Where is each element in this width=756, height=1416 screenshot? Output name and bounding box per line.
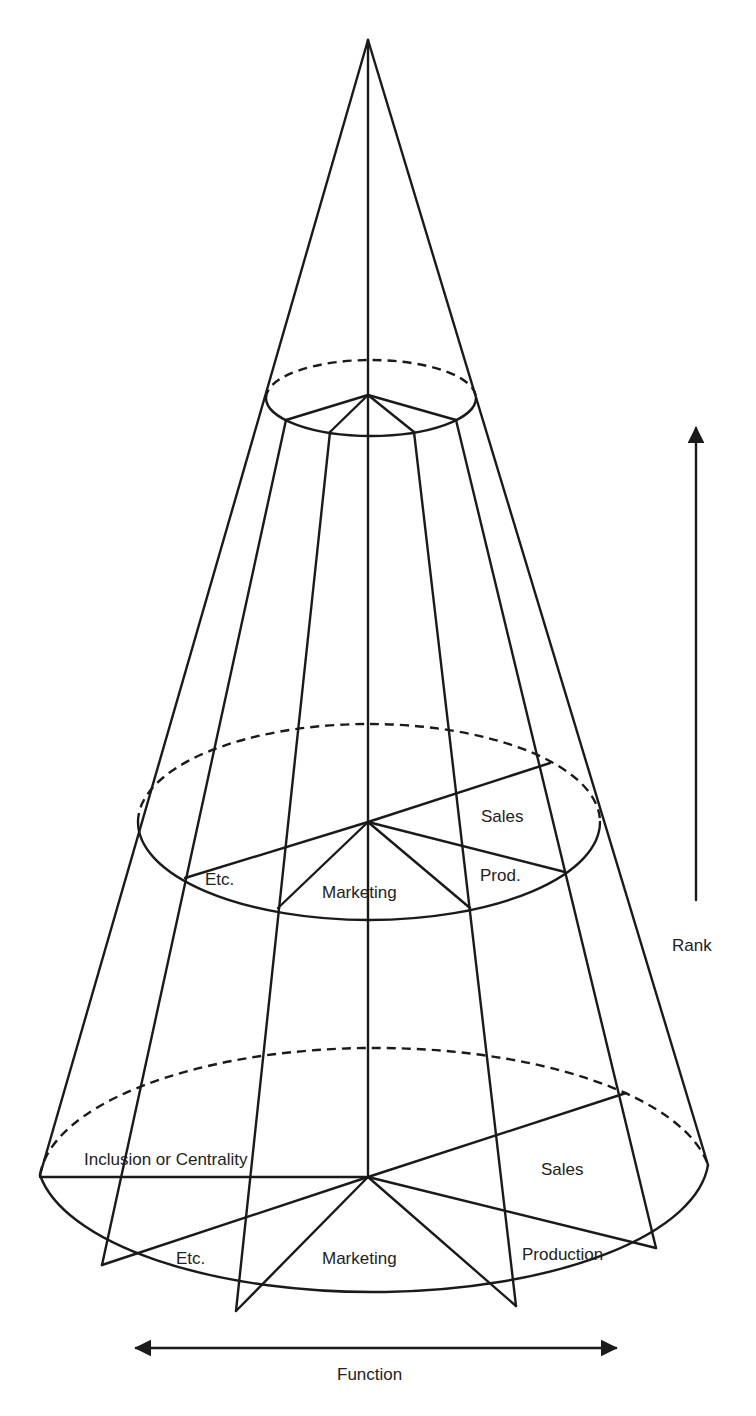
label-base-etc: Etc.: [176, 1249, 205, 1268]
rank-axis: Rank: [672, 428, 712, 955]
label-mid-etc: Etc.: [205, 870, 234, 889]
label-mid-marketing: Marketing: [322, 883, 397, 902]
rank-label: Rank: [672, 936, 712, 955]
function-axis: Function: [136, 1348, 616, 1384]
function-label: Function: [337, 1365, 402, 1384]
base-level-labels: Inclusion or Centrality Etc. Marketing P…: [84, 1150, 603, 1268]
label-base-sales: Sales: [541, 1160, 584, 1179]
label-base-production: Production: [522, 1245, 603, 1264]
label-inclusion-centrality: Inclusion or Centrality: [84, 1150, 248, 1169]
label-mid-sales: Sales: [481, 807, 524, 826]
label-mid-production: Prod.: [480, 866, 521, 885]
cone-outline: [40, 40, 708, 1175]
cone-diagram: Etc. Marketing Prod. Sales Inclusion or …: [0, 0, 756, 1416]
middle-level-labels: Etc. Marketing Prod. Sales: [205, 807, 524, 902]
top-ellipse: [266, 360, 476, 436]
base-ellipse: [40, 1048, 708, 1311]
label-base-marketing: Marketing: [322, 1249, 397, 1268]
